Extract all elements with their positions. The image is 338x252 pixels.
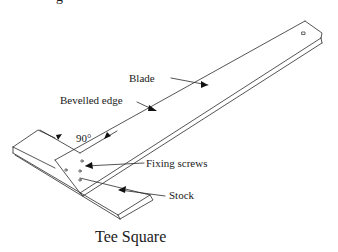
label-stock: Stock (169, 190, 194, 201)
tee-square-diagram: g Blade Bevelled edge 90° Fixing screws … (0, 0, 338, 252)
figure-caption: Tee Square (95, 229, 166, 245)
blade-shape (55, 21, 322, 196)
label-fixing-screws: Fixing screws (146, 158, 207, 169)
label-blade: Blade (129, 73, 155, 84)
label-bevelled-edge: Bevelled edge (60, 95, 123, 106)
label-angle-90: 90° (76, 133, 91, 144)
tee-square-drawing (0, 0, 338, 252)
partial-heading-text: g (56, 0, 63, 4)
